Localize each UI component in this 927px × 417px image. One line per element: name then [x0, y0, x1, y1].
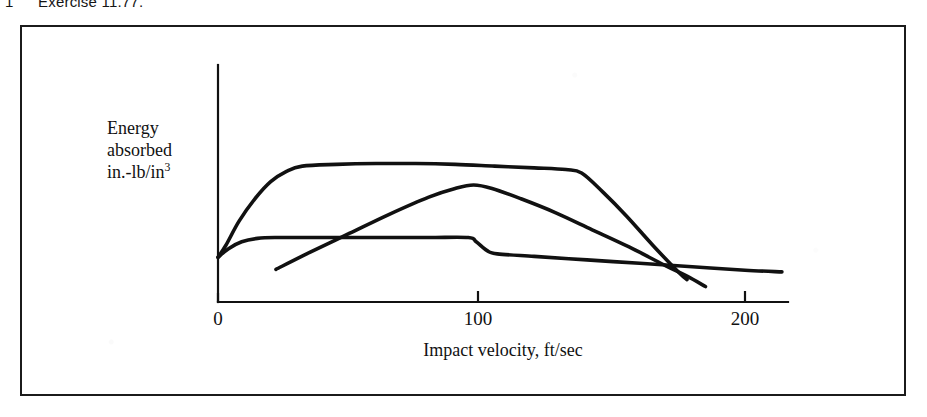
x-tick-label-200: 200 — [715, 308, 775, 330]
y-axis-label-exponent: 3 — [165, 161, 171, 174]
caption-number: 1 — [5, 0, 14, 10]
x-tick-label-0: 0 — [188, 308, 248, 330]
caption-text: Exercise 11.77. — [38, 0, 143, 10]
y-axis-label-line-1: Energy — [107, 118, 211, 140]
y-axis-label-line-3: in.-lb/in3 — [107, 162, 211, 184]
y-axis-label-line-2: absorbed — [107, 140, 211, 162]
x-tick-label-100: 100 — [448, 308, 508, 330]
figure-caption-row: 1 Exercise 11.77. — [0, 0, 927, 15]
x-axis-label: Impact velocity, ft/sec — [218, 340, 788, 361]
y-axis-label: Energy absorbed in.-lb/in3 — [107, 118, 211, 184]
y-axis-label-units: in.-lb/in — [107, 162, 165, 182]
